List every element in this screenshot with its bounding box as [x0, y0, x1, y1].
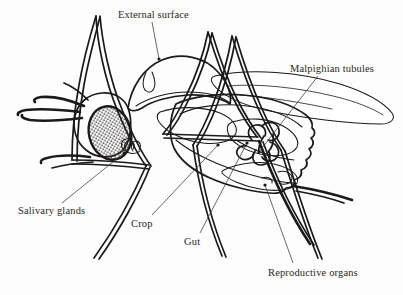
leg-fore-tarsus — [94, 166, 150, 259]
label-reproductive-organs: Reproductive organs — [268, 267, 358, 278]
dorsal-vessel — [143, 72, 155, 92]
label-salivary-glands: Salivary glands — [18, 205, 85, 216]
wing — [211, 72, 393, 124]
label-malpighian-tubules: Malpighian tubules — [290, 63, 374, 74]
label-external-surface: External surface — [118, 9, 189, 20]
label-crop: Crop — [131, 218, 153, 229]
mosquito-drawing — [0, 0, 403, 295]
label-gut: Gut — [184, 236, 200, 247]
mosquito-anatomy-figure: External surface Malpighian tubules Sali… — [0, 0, 403, 295]
abdomen-tip — [293, 186, 352, 203]
